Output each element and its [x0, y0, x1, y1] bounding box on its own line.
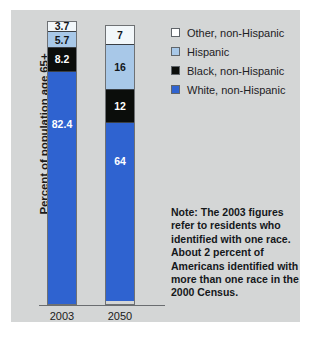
segment-label-other-2003: 3.7 — [55, 22, 70, 32]
legend-label-other: Other, non-Hispanic — [187, 27, 284, 39]
x-tick-2050: 2050 — [90, 310, 150, 322]
legend-item-white[interactable]: White, non-Hispanic — [171, 81, 299, 99]
other-swatch-icon — [171, 28, 180, 37]
segment-label-hispanic-2003: 5.7 — [55, 35, 70, 46]
hispanic-swatch-icon — [171, 47, 180, 56]
legend: Other, non-Hispanic Hispanic Black, non-… — [171, 24, 299, 100]
legend-label-hispanic: Hispanic — [187, 46, 229, 58]
legend-label-black: Black, non-Hispanic — [187, 65, 284, 77]
legend-label-white: White, non-Hispanic — [187, 84, 285, 96]
white-swatch-icon — [171, 85, 180, 94]
segment-black-2050[interactable]: 12 — [106, 90, 134, 123]
segment-white-2050[interactable]: 64 — [106, 123, 134, 301]
segment-white-2003[interactable]: 82.4 — [48, 72, 76, 304]
segment-label-white-2050: 64 — [106, 156, 134, 167]
chart-note: Note: The 2003 figures refer to resident… — [171, 206, 303, 300]
x-axis-line — [39, 305, 165, 306]
bar-2003[interactable]: 3.7 5.7 8.2 82.4 — [47, 21, 77, 305]
black-swatch-icon — [171, 66, 180, 75]
segment-label-black-2050: 12 — [114, 101, 126, 112]
x-tick-2003: 2003 — [32, 310, 92, 322]
segment-black-2003[interactable]: 8.2 — [48, 48, 76, 71]
chart-panel: Percent of population age 65+ 3.7 5.7 8.… — [11, 10, 300, 322]
segment-other-2050[interactable]: 7 — [106, 26, 134, 45]
legend-item-hispanic[interactable]: Hispanic — [171, 43, 299, 61]
segment-label-other-2050: 7 — [117, 30, 123, 41]
plot-area: 3.7 5.7 8.2 82.4 7 16 12 64 — [35, 16, 165, 316]
bar-2050[interactable]: 7 16 12 64 — [105, 25, 135, 305]
segment-label-white-2003: 82.4 — [48, 119, 76, 130]
segment-label-black-2003: 8.2 — [55, 54, 70, 65]
segment-hispanic-2003[interactable]: 5.7 — [48, 32, 76, 48]
segment-other-2003[interactable]: 3.7 — [48, 22, 76, 32]
legend-item-black[interactable]: Black, non-Hispanic — [171, 62, 299, 80]
legend-item-other[interactable]: Other, non-Hispanic — [171, 24, 299, 42]
segment-label-hispanic-2050: 16 — [114, 62, 126, 73]
segment-hispanic-2050[interactable]: 16 — [106, 45, 134, 89]
